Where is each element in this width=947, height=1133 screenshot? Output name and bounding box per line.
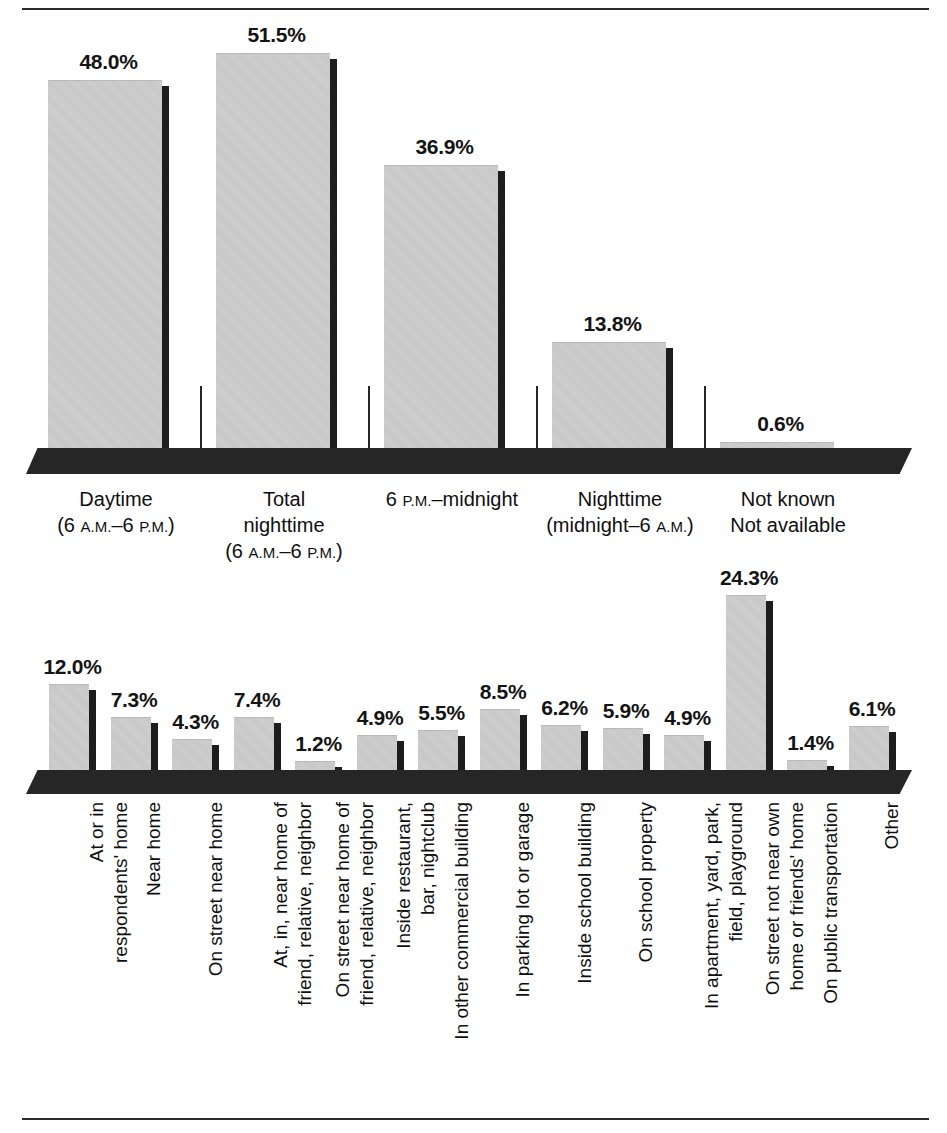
chart2-category-label: Inside school building	[573, 802, 597, 1102]
chart2-bar	[849, 726, 896, 770]
chart2-value-label: 7.4%	[220, 688, 295, 712]
chart2-bar-face	[357, 735, 397, 770]
chart2-category-label: Near home	[142, 802, 166, 1102]
chart2-bar-shadow	[397, 741, 404, 770]
chart2-category-label: On street near home offriend, relative, …	[331, 802, 379, 1102]
chart2-bar-shadow	[335, 767, 342, 770]
chart2-bar	[787, 760, 834, 770]
chart2-bar-shadow	[151, 723, 158, 770]
chart2-bar-shadow	[889, 732, 896, 770]
chart2-bar-face	[418, 730, 458, 770]
chart2-bar-face	[234, 717, 274, 770]
chart2-bar-face	[664, 735, 704, 770]
chart2-bar	[172, 739, 219, 770]
chart2-value-label: 4.3%	[158, 710, 233, 734]
chart2-bar-shadow	[827, 766, 834, 770]
chart2-bar	[295, 761, 342, 770]
chart2-bar-shadow	[520, 715, 527, 770]
chart2-bar-face	[295, 761, 335, 770]
chart2-bar	[49, 684, 96, 770]
chart2-bar-shadow	[274, 723, 281, 770]
chart2-bar	[111, 717, 158, 770]
chart2-bar-face	[49, 684, 89, 770]
chart2-baseline	[26, 770, 912, 794]
chart2-bar-face	[111, 717, 151, 770]
chart2-value-label: 4.9%	[650, 706, 725, 730]
chart2-bar-face	[480, 709, 520, 770]
chart2-bar-face	[849, 726, 889, 770]
chart2-category-label: On street not near ownhome or friends' h…	[761, 802, 809, 1102]
chart2-bar	[418, 730, 465, 770]
chart2-category-label: In parking lot or garage	[511, 802, 535, 1102]
chart2-bar-shadow	[212, 745, 219, 770]
chart2-category-label: At or inrespondents' home	[85, 802, 133, 1102]
chart2-category-label: Inside restaurant,bar, nightclub	[392, 802, 440, 1102]
chart2-value-label: 7.3%	[97, 688, 172, 712]
chart2-value-label: 5.5%	[404, 701, 479, 725]
chart2-category-label: At, in, near home offriend, relative, ne…	[269, 802, 317, 1102]
chart2-value-label: 1.2%	[281, 732, 356, 756]
chart2-value-label: 1.4%	[773, 731, 848, 755]
chart2-bar	[234, 717, 281, 770]
chart2-bar-shadow	[581, 731, 588, 770]
chart2-bar-shadow	[89, 690, 96, 770]
chart2-bar-shadow	[458, 736, 465, 770]
chart2-value-label: 24.3%	[712, 566, 787, 590]
chart2-bar	[664, 735, 711, 770]
chart2-value-label: 6.1%	[835, 697, 910, 721]
chart2-bar	[726, 595, 773, 770]
chart2-bar	[603, 728, 650, 770]
chart2-bar-face	[787, 760, 827, 770]
chart2-category-label: On street near home	[204, 802, 228, 1102]
chart2-bar	[541, 725, 588, 770]
chart2-category-label: In other commercial building	[450, 802, 474, 1102]
chart2-bar-shadow	[704, 741, 711, 770]
chart2-bar-face	[541, 725, 581, 770]
chart2-bar-face	[603, 728, 643, 770]
chart2-bar-shadow	[766, 601, 773, 770]
chart2-bar	[480, 709, 527, 770]
chart2-bar	[357, 735, 404, 770]
chart2-bar-face	[726, 595, 766, 770]
chart-place-of-incident: 12.0%7.3%4.3%7.4%1.2%4.9%5.5%8.5%6.2%5.9…	[0, 0, 947, 1133]
chart2-category-label: Other	[880, 802, 904, 1102]
chart2-value-label: 12.0%	[35, 655, 110, 679]
chart2-bar-shadow	[643, 734, 650, 770]
chart2-bar-face	[172, 739, 212, 770]
chart2-category-label: On public transportation	[819, 802, 843, 1102]
chart2-category-label: In apartment, yard, park,field, playgrou…	[700, 802, 748, 1102]
chart2-category-label: On school property	[634, 802, 658, 1102]
